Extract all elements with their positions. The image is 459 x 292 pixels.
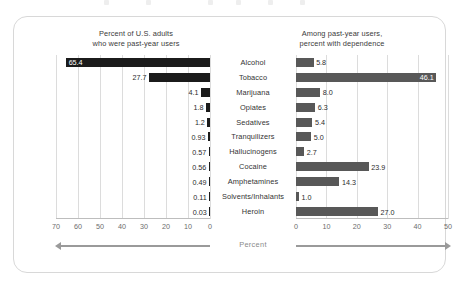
bar: 5.0: [296, 132, 311, 141]
bar-row: 0.49: [56, 174, 210, 189]
bar: 0.03: [209, 207, 210, 216]
bar-value-label: 0.93: [191, 132, 205, 141]
bar: 65.4: [66, 58, 210, 67]
gridline: [448, 55, 449, 219]
bar-value-label: 5.0: [314, 132, 324, 141]
left-arrow-line: [60, 245, 210, 247]
bar-value-label: 0.03: [193, 207, 207, 216]
bar-value-label: 4.1: [188, 88, 198, 97]
category-label: Marijuana: [210, 85, 296, 100]
axis-tick-label: 70: [52, 222, 60, 231]
left-axis-line: [56, 218, 210, 219]
bar-value-label: 5.4: [315, 118, 325, 127]
bar-row: 46.1: [296, 70, 448, 85]
bar-value-label: 5.8: [316, 58, 326, 67]
axis-tick-label: 20: [162, 222, 170, 231]
bar-row: 1.0: [296, 189, 448, 204]
bar: 0.56: [209, 162, 210, 171]
bar-row: 0.57: [56, 144, 210, 159]
bar: 5.8: [296, 58, 314, 67]
axis-tick-label: 0: [294, 222, 298, 231]
bar-value-label: 6.3: [318, 103, 328, 112]
axis-tick-label: 30: [140, 222, 148, 231]
right-arrow-line: [296, 245, 446, 247]
bar: 4.1: [201, 88, 210, 97]
bar-row: 5.0: [296, 130, 448, 145]
bar-value-label: 27.0: [381, 207, 395, 216]
bar: 6.3: [296, 103, 315, 112]
axis-tick-label: 60: [74, 222, 82, 231]
percent-axis-label: Percent: [210, 240, 296, 249]
right-panel-title: Among past-year users, percent with depe…: [262, 29, 422, 49]
bar-value-label: 0.11: [193, 192, 206, 201]
bar-value-label: 23.9: [371, 162, 385, 171]
bar-row: 23.9: [296, 159, 448, 174]
bar-value-label: 27.7: [133, 73, 147, 82]
axis-tick-label: 50: [96, 222, 104, 231]
bar-row: 0.93: [56, 130, 210, 145]
right-axis-line: [296, 218, 448, 219]
bar: 0.57: [209, 147, 210, 156]
bar-value-label: 0.57: [192, 147, 206, 156]
bar: 5.4: [296, 118, 312, 127]
right-arrow-head-icon: [445, 242, 451, 250]
bar-row: 1.8: [56, 100, 210, 115]
left-arrow-head-icon: [55, 242, 61, 250]
category-label: Amphetamines: [210, 174, 296, 189]
category-label: Tranquilizers: [210, 130, 296, 145]
bar-row: 4.1: [56, 85, 210, 100]
category-label: Tobacco: [210, 70, 296, 85]
bar-row: 14.3: [296, 174, 448, 189]
left-direction-arrow: [60, 241, 210, 250]
axis-tick-label: 40: [118, 222, 126, 231]
category-label: Opiates: [210, 100, 296, 115]
bar-row: 27.0: [296, 204, 448, 219]
chart-card: Percent of U.S. adults who were past-yea…: [13, 16, 446, 273]
bar: 0.11: [209, 192, 210, 201]
bar-row: 0.11: [56, 189, 210, 204]
bar-row: 65.4: [56, 55, 210, 70]
bar-row: 0.56: [56, 159, 210, 174]
bar-value-label: 2.7: [307, 147, 317, 156]
category-label-column: AlcoholTobaccoMarijuanaOpiatesSedativesT…: [210, 55, 296, 219]
right-chart-plot: 5.846.18.06.35.45.02.723.914.31.027.0: [296, 55, 448, 219]
left-chart-plot: 65.427.74.11.81.20.930.570.560.490.110.0…: [56, 55, 210, 219]
scan-artifact-strip: [0, 0, 459, 8]
bar-value-label: 46.1: [420, 73, 434, 82]
category-label: Heroin: [210, 204, 296, 219]
artifact-mark: [236, 0, 241, 5]
category-label: Solvents/Inhalants: [210, 189, 296, 204]
bar: 2.7: [296, 147, 304, 156]
bar-value-label: 65.4: [69, 58, 83, 67]
bar: 0.49: [209, 177, 210, 186]
category-label: Alcohol: [210, 55, 296, 70]
artifact-mark: [146, 0, 151, 5]
left-panel-title: Percent of U.S. adults who were past-yea…: [56, 29, 216, 49]
bar-row: 27.7: [56, 70, 210, 85]
axis-tick-label: 10: [184, 222, 192, 231]
bar-value-label: 1.2: [195, 118, 205, 127]
left-panel-title-line2: who were past-year users: [56, 39, 216, 49]
category-label: Cocaine: [210, 159, 296, 174]
right-panel-title-line2: percent with dependence: [262, 39, 422, 49]
left-bar-rows: 65.427.74.11.81.20.930.570.560.490.110.0…: [56, 55, 210, 219]
axis-tick-label: 30: [383, 222, 391, 231]
category-label: Sedatives: [210, 115, 296, 130]
bar: 23.9: [296, 162, 369, 171]
bar: 1.8: [206, 103, 210, 112]
bar: 1.0: [296, 192, 299, 201]
axis-tick-label: 0: [208, 222, 212, 231]
bar: 27.7: [149, 73, 210, 82]
bar: 46.1: [296, 73, 436, 82]
bar-value-label: 0.56: [192, 162, 206, 171]
right-bar-rows: 5.846.18.06.35.45.02.723.914.31.027.0: [296, 55, 448, 219]
bar: 27.0: [296, 207, 378, 216]
bar-row: 5.8: [296, 55, 448, 70]
bar-row: 6.3: [296, 100, 448, 115]
artifact-mark: [268, 0, 273, 5]
right-panel-title-line1: Among past-year users,: [262, 29, 422, 39]
bar-value-label: 0.49: [192, 177, 206, 186]
bar-row: 2.7: [296, 144, 448, 159]
bar-row: 1.2: [56, 115, 210, 130]
axis-tick-label: 50: [444, 222, 452, 231]
